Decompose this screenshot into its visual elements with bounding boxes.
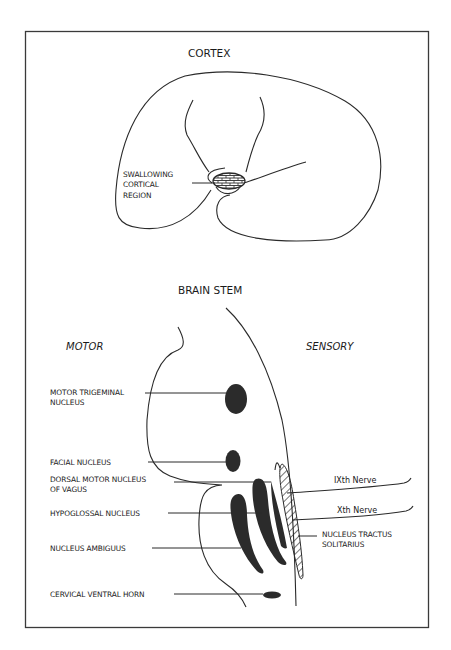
tenth-nerve-label: Xth Nerve [337, 506, 377, 515]
nts-label: NUCLEUS TRACTUS SOLITARIUS [322, 530, 394, 549]
swallowing-pathway-diagram: CORTEX SWALLOWING CORTICAL REGION BRAIN … [0, 0, 451, 650]
cervical-ventral-horn-label: CERVICAL VENTRAL HORN [50, 590, 145, 599]
brainstem-section: BRAIN STEM MOTOR SENSORY MOTOR TRIGEMINA… [50, 284, 413, 607]
central-sulcus-right [246, 97, 264, 172]
cortex-title: CORTEX [188, 47, 230, 59]
ninth-nerve-label: IXth Nerve [334, 476, 377, 485]
cortex-outline [116, 72, 381, 241]
cortex-section: CORTEX SWALLOWING CORTICAL REGION [116, 47, 381, 241]
motor-trigeminal-nucleus [225, 384, 247, 414]
facial-nucleus-label: FACIAL NUCLEUS [50, 458, 111, 467]
swallowing-region-label: SWALLOWING CORTICAL REGION [123, 170, 175, 200]
nucleus-ambiguus-label: NUCLEUS AMBIGUUS [50, 544, 126, 553]
dorsal-bump [275, 463, 280, 470]
sensory-heading: SENSORY [306, 341, 354, 352]
dorsal-motor-vagus-label: DORSAL MOTOR NUCLEUS OF VAGUS [50, 475, 148, 494]
motor-heading: MOTOR [66, 341, 103, 352]
cervical-ventral-horn [263, 592, 281, 599]
brainstem-title: BRAIN STEM [178, 284, 242, 296]
sylvian-fissure [244, 162, 306, 183]
hypoglossal-label: HYPOGLOSSAL NUCLEUS [50, 509, 140, 518]
facial-nucleus [226, 450, 241, 472]
central-sulcus-left [185, 100, 209, 172]
motor-trigeminal-label: MOTOR TRIGEMINAL NUCLEUS [50, 388, 126, 407]
